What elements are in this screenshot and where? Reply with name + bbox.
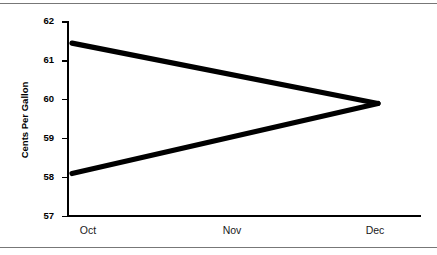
y-tick-label-57: 57 bbox=[43, 210, 54, 221]
y-tick-label-60: 60 bbox=[43, 93, 54, 104]
x-tick-label-oct: Oct bbox=[80, 224, 96, 236]
line-chart-figure: Cents Per Gallon 62 61 60 59 58 57 bbox=[0, 0, 437, 255]
y-tick-label-62: 62 bbox=[43, 15, 54, 26]
series-line-lower bbox=[72, 103, 378, 173]
x-tick-label-nov: Nov bbox=[223, 224, 242, 236]
y-tick-label-58: 58 bbox=[43, 171, 54, 182]
y-tick-label-59: 59 bbox=[43, 132, 54, 143]
y-tick-label-61: 61 bbox=[43, 54, 54, 65]
chart-canvas: Cents Per Gallon 62 61 60 59 58 57 bbox=[0, 0, 437, 255]
chart-page: Cents Per Gallon 62 61 60 59 58 57 bbox=[0, 0, 437, 255]
series-line-upper bbox=[72, 43, 378, 103]
y-axis-title: Cents Per Gallon bbox=[19, 82, 30, 159]
x-tick-label-dec: Dec bbox=[366, 224, 385, 236]
